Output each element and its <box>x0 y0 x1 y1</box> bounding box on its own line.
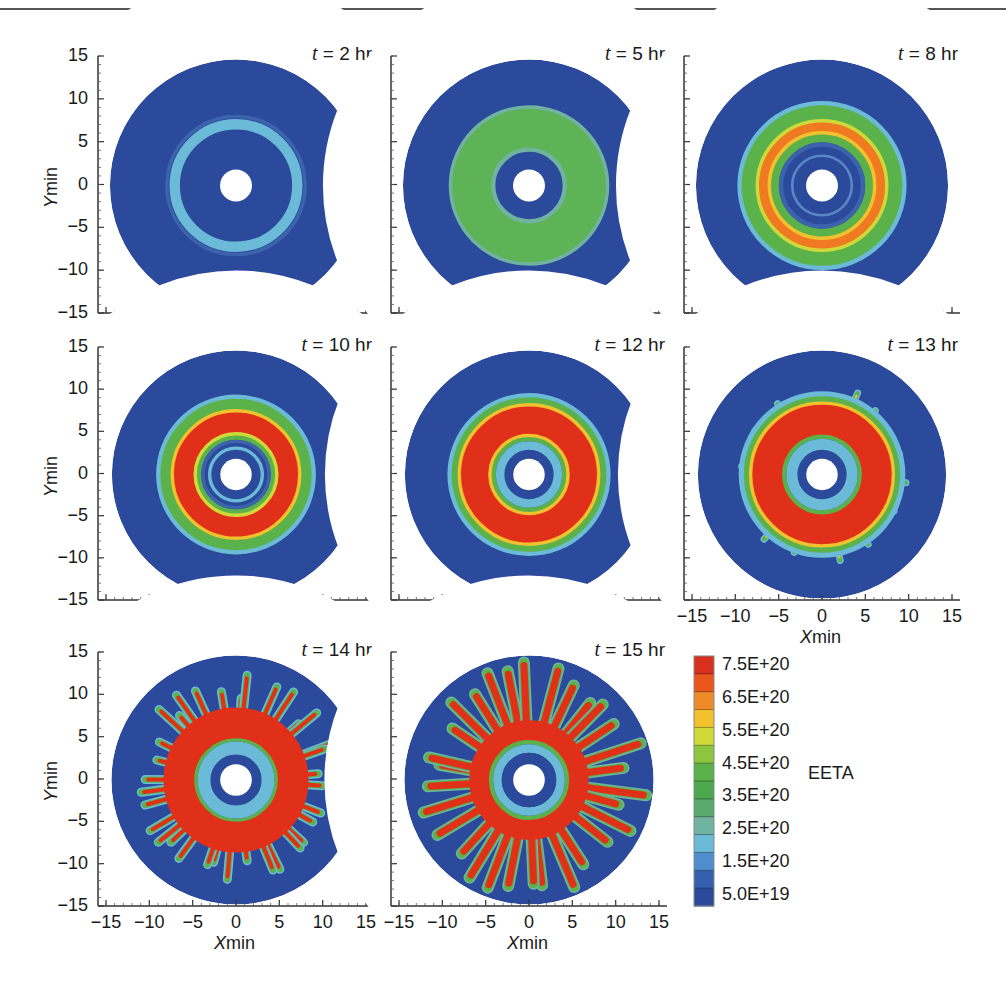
panel-title-value: = 14 hr <box>307 639 372 660</box>
x-tick-label: −15 <box>379 912 419 933</box>
colorbar-tick-label: 4.5E+20 <box>722 753 790 774</box>
x-tick-label: −10 <box>129 912 169 933</box>
x-tick-label: 5 <box>259 912 299 933</box>
x-tick-label: 10 <box>889 606 929 627</box>
x-tick-label: 0 <box>802 606 842 627</box>
x-tick-label: 5 <box>845 606 885 627</box>
panel-title-value: = 5 hr <box>611 43 665 64</box>
panel-title: t = 15 hr <box>594 638 665 661</box>
y-tick-label: 5 <box>38 726 88 747</box>
x-axis-label-rest: min <box>226 933 255 953</box>
x-tick-label: −10 <box>715 606 755 627</box>
panel-title-value: = 8 hr <box>904 43 958 64</box>
y-axis-label: Ymin <box>41 455 62 496</box>
y-tick-label: 15 <box>38 641 88 662</box>
panel-title: t = 5 hr <box>605 42 665 65</box>
colorbar-title: EETA <box>808 763 854 784</box>
y-tick-label: −15 <box>38 302 88 323</box>
y-tick-label: 5 <box>38 420 88 441</box>
colorbar-tick-label: 2.5E+20 <box>722 818 790 839</box>
y-tick-label: 10 <box>38 683 88 704</box>
x-axis-label-rest: min <box>519 933 548 953</box>
contour-plot <box>391 650 667 906</box>
x-tick-label: −5 <box>759 606 799 627</box>
y-tick-label: 5 <box>38 131 88 152</box>
y-axis-label-var: Y <box>41 484 61 496</box>
colorbar-tick-label: 1.5E+20 <box>722 851 790 872</box>
x-tick-label: 15 <box>639 912 679 933</box>
panel-title: t = 2 hr <box>312 42 372 65</box>
y-tick-label: 10 <box>38 378 88 399</box>
contour-panel: t = 15 hr−15−10−5051015Xmin <box>391 650 667 906</box>
colorbar-tick-label: 6.5E+20 <box>722 687 790 708</box>
panel-title-value: = 13 hr <box>893 334 958 355</box>
panel-title-value: = 2 hr <box>318 43 372 64</box>
x-axis-label: Xmin <box>800 627 841 648</box>
y-tick-label: −15 <box>38 589 88 610</box>
panel-title-value: = 12 hr <box>600 334 665 355</box>
panel-title: t = 12 hr <box>594 333 665 356</box>
y-axis-label-var: Y <box>41 195 61 207</box>
y-axis-label-rest: min <box>41 761 61 790</box>
contour-plot <box>684 345 960 600</box>
panel-title: t = 8 hr <box>898 42 958 65</box>
x-axis-label: Xmin <box>214 933 255 954</box>
panel-title: t = 13 hr <box>887 333 958 356</box>
x-tick-label: −5 <box>466 912 506 933</box>
x-axis-label-var: X <box>214 933 226 953</box>
contour-panel: t = 13 hr−15−10−5051015Xmin <box>684 345 960 600</box>
x-axis-label-var: X <box>507 933 519 953</box>
x-tick-label: 0 <box>216 912 256 933</box>
x-axis-label: Xmin <box>507 933 548 954</box>
y-tick-label: −5 <box>38 216 88 237</box>
x-tick-label: 0 <box>509 912 549 933</box>
y-tick-label: −10 <box>38 853 88 874</box>
x-tick-label: −15 <box>672 606 712 627</box>
x-axis-label-rest: min <box>812 627 841 647</box>
y-axis-label-var: Y <box>41 790 61 802</box>
y-tick-label: 15 <box>38 45 88 66</box>
x-tick-label: 10 <box>596 912 636 933</box>
x-tick-label: −15 <box>86 912 126 933</box>
panel-title: t = 10 hr <box>301 333 372 356</box>
y-tick-label: −5 <box>38 505 88 526</box>
x-tick-label: 10 <box>303 912 343 933</box>
y-tick-label: −10 <box>38 547 88 568</box>
y-axis-label-rest: min <box>41 455 61 484</box>
x-tick-label: −10 <box>422 912 462 933</box>
y-axis-label: Ymin <box>41 761 62 802</box>
y-tick-label: −5 <box>38 810 88 831</box>
x-tick-label: 15 <box>932 606 972 627</box>
y-axis-label: Ymin <box>41 166 62 207</box>
colorbar-tick-label: 7.5E+20 <box>722 654 790 675</box>
x-axis-label-var: X <box>800 627 812 647</box>
panel-title-value: = 15 hr <box>600 639 665 660</box>
y-tick-label: −15 <box>38 895 88 916</box>
colorbar-tick-label: 3.5E+20 <box>722 785 790 806</box>
x-tick-label: 5 <box>552 912 592 933</box>
panel-title: t = 14 hr <box>301 638 372 661</box>
x-tick-label: −5 <box>173 912 213 933</box>
y-tick-label: 10 <box>38 88 88 109</box>
y-tick-label: −10 <box>38 259 88 280</box>
y-tick-label: 15 <box>38 336 88 357</box>
colorbar-tick-label: 5.5E+20 <box>722 720 790 741</box>
y-axis-label-rest: min <box>41 166 61 195</box>
panel-title-value: = 10 hr <box>307 334 372 355</box>
colorbar <box>694 656 714 906</box>
colorbar-tick-label: 5.0E+19 <box>722 884 790 905</box>
